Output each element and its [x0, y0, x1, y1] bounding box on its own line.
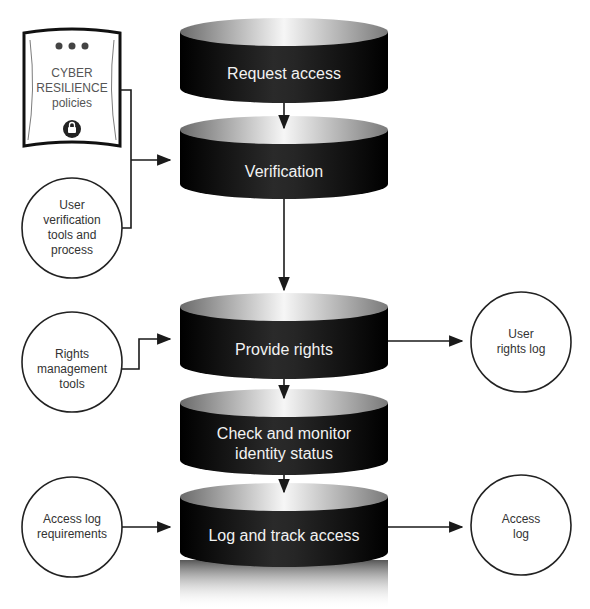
step-check-monitor-line-2: identity status	[180, 444, 388, 464]
cylinder-verification	[180, 116, 388, 199]
dot-icon	[56, 43, 63, 50]
text-line: process	[22, 243, 122, 258]
label-access-log: Access log	[471, 512, 571, 542]
dot-icon	[69, 43, 76, 50]
text-line: User	[22, 198, 122, 213]
step-request-access: Request access	[180, 64, 388, 84]
step-check-monitor: Check and monitor identity status	[180, 424, 388, 464]
text-line: User	[471, 327, 571, 342]
text-line: rights log	[471, 342, 571, 357]
policy-line-1: CYBER	[22, 66, 122, 81]
connector-verification-inputs	[120, 90, 170, 228]
text-line: tools	[22, 377, 122, 392]
text-line: verification	[22, 213, 122, 228]
text-line: management	[22, 362, 122, 377]
label-user-rights-log: User rights log	[471, 327, 571, 357]
label-access-log-requirements: Access log requirements	[22, 512, 122, 542]
lock-icon	[63, 120, 81, 138]
policy-line-3: policies	[22, 96, 122, 111]
step-log-track: Log and track access	[180, 526, 388, 546]
text-line: tools and	[22, 228, 122, 243]
cylinder-provide-rights	[180, 293, 388, 379]
text-line: log	[471, 527, 571, 542]
cylinder-request-access	[180, 18, 388, 103]
text-line: Rights	[22, 347, 122, 362]
policy-line-2: RESILIENCE	[22, 81, 122, 96]
text-line: requirements	[22, 527, 122, 542]
cylinder-log-track	[180, 483, 388, 609]
text-line: Access	[471, 512, 571, 527]
dot-icon	[82, 43, 89, 50]
step-verification: Verification	[180, 162, 388, 182]
policy-device-label: CYBER RESILIENCE policies	[22, 66, 122, 111]
label-user-verification: User verification tools and process	[22, 198, 122, 258]
label-rights-management: Rights management tools	[22, 347, 122, 392]
step-provide-rights: Provide rights	[180, 340, 388, 360]
step-check-monitor-line-1: Check and monitor	[180, 424, 388, 444]
text-line: Access log	[22, 512, 122, 527]
